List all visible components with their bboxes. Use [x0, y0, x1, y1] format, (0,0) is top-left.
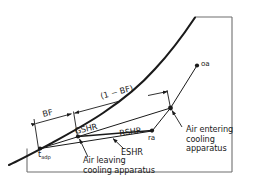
air-entering-callout: Air entering cooling apparatus [186, 125, 256, 154]
point-oa [195, 63, 199, 67]
bf1-extension-right [167, 90, 171, 108]
oa-label: oa [201, 60, 210, 68]
point-mix [168, 106, 173, 111]
ra-label: ra [148, 134, 155, 142]
bf1-arrow-right [148, 92, 168, 96]
air-leaving-callout: Air leaving cooling apparatus [83, 156, 178, 175]
bf-dimension-arrow [36, 114, 72, 124]
mix-to-oa-line [171, 66, 198, 109]
mix-to-ra-line [153, 108, 171, 131]
air-entering-line-3: apparatus [186, 144, 256, 154]
air-leaving-line-2: cooling apparatus [83, 166, 178, 176]
t-adp-label: tadp [38, 150, 51, 160]
air-entering-leader [172, 111, 182, 128]
psychrometric-diagram: BF (1 − BF) GSHR RSHR ESHR tadp ra oa Ai… [0, 0, 257, 189]
t-adp-subscript: adp [41, 154, 50, 160]
